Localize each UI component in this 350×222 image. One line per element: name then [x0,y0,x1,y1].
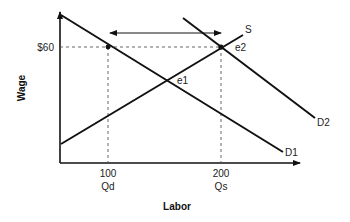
label-e1: e1 [177,75,189,86]
point-e2 [218,44,223,49]
x-tick-qd: Qd [101,181,114,192]
point-qd [106,45,111,50]
x-axis-title: Labor [163,201,191,212]
demand-curve-d1 [61,15,283,152]
label-e2: e2 [235,42,247,53]
x-tick-100: 100 [100,168,117,179]
x-tick-200: 200 [213,168,230,179]
labor-market-diagram: $60 100 Qd 200 Qs S e2 e1 D1 D2 Wage Lab… [0,0,350,222]
label-s: S [245,24,252,35]
label-d2: D2 [317,117,330,128]
y-tick-60: $60 [37,42,54,53]
x-tick-qs: Qs [215,181,228,192]
supply-curve-s [61,35,243,144]
label-d1: D1 [285,147,298,158]
y-axis-title: Wage [16,74,27,101]
